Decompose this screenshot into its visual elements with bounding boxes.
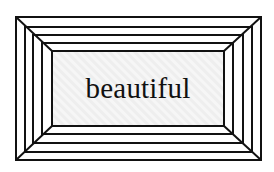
center-word: beautiful [52,51,224,126]
